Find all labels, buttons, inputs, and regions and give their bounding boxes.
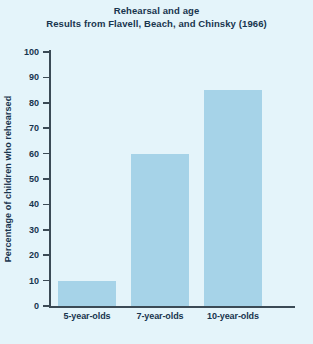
y-axis-tick-label: 80 [0, 98, 39, 108]
y-axis-tick-label: 50 [0, 174, 39, 184]
y-axis-tick-label: 60 [0, 149, 39, 159]
y-axis-tick [43, 305, 49, 307]
plot-area: 0102030405060708090100 5-year-olds7-year… [0, 0, 313, 344]
y-axis-tick-label: 0 [0, 301, 39, 311]
y-axis-tick [43, 280, 49, 282]
y-axis-tick-label: 10 [0, 276, 39, 286]
y-axis-tick [43, 204, 49, 206]
y-axis-tick [43, 127, 49, 129]
y-axis-tick-label: 70 [0, 123, 39, 133]
y-axis-tick-label: 90 [0, 72, 39, 82]
y-axis-tick-label: 20 [0, 250, 39, 260]
y-axis-tick-label: 30 [0, 225, 39, 235]
y-axis-line [49, 50, 51, 307]
bar [204, 90, 262, 306]
y-axis-tick [43, 254, 49, 256]
y-axis-tick-label: 100 [0, 47, 39, 57]
x-axis-category-label: 10-year-olds [191, 311, 276, 321]
y-axis-tick [43, 153, 49, 155]
y-axis-tick [43, 178, 49, 180]
x-axis-line [49, 306, 295, 308]
y-axis-tick [43, 229, 49, 231]
y-axis-tick [43, 102, 49, 104]
bar [58, 281, 116, 306]
y-axis-tick [43, 77, 49, 79]
bar [131, 154, 189, 306]
y-axis-tick-label: 40 [0, 199, 39, 209]
bar-chart: Rehearsal and age Results from Flavell, … [0, 0, 313, 344]
y-axis-tick [43, 51, 49, 53]
